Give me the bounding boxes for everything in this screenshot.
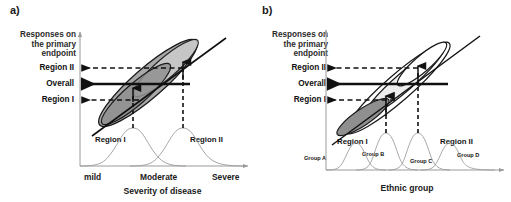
panel-b-curve-group-a [326,143,386,170]
figure-container: a) Responses on the primary endpoint Reg… [0,0,511,202]
panel-a-plot [0,0,256,202]
panel-b: b) Responses on the primary endpoint Reg… [252,0,511,202]
panel-b-trend-line [332,36,480,145]
panel-b-distribution-curves [326,133,495,170]
panel-a: a) Responses on the primary endpoint Reg… [0,0,256,202]
panel-b-plot [252,0,511,202]
panel-a-distribution-curves [80,128,245,166]
panel-b-ellipse-group [332,34,480,145]
panel-a-trend-line [92,38,226,136]
panel-b-curve-group-b [356,133,418,170]
panel-a-curve-region-ii [130,128,245,166]
panel-b-axes [326,30,504,170]
